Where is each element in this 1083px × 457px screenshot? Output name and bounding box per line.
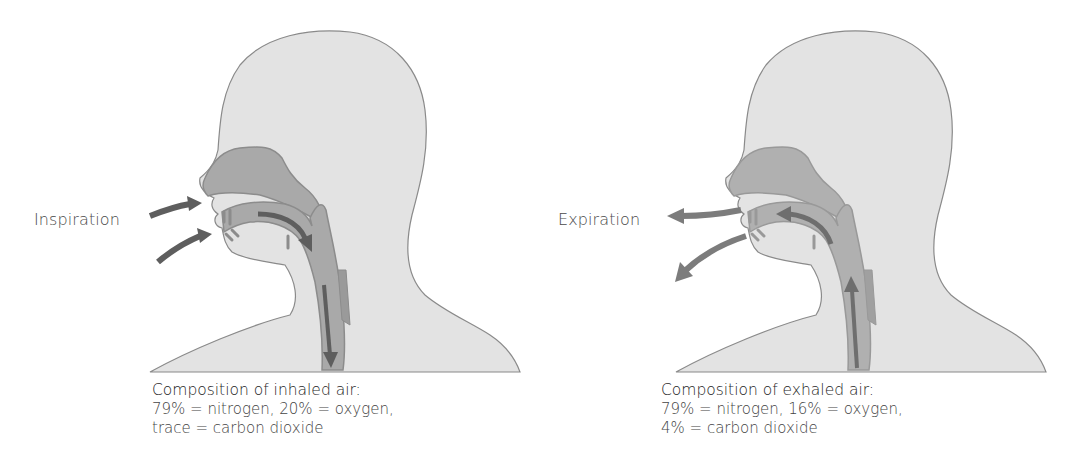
caption-line: 4% = carbon dioxide (661, 419, 903, 438)
caption-line: trace = carbon dioxide (152, 419, 394, 438)
caption-line: 79% = nitrogen, 16% = oxygen, (661, 400, 903, 419)
caption-title: Composition of exhaled air: (661, 381, 903, 400)
inhalation-panel: Inspiration Composition of inhaled air: … (0, 0, 541, 457)
caption-title: Composition of inhaled air: (152, 381, 394, 400)
expiration-label: Expiration (558, 210, 640, 229)
inflow-arrowhead-upper (187, 196, 202, 211)
inflow-arrow-upper (150, 204, 190, 216)
caption-line: 79% = nitrogen, 20% = oxygen, (152, 400, 394, 419)
outflow-arrow-upper (681, 210, 741, 216)
exhaled-air-composition: Composition of exhaled air: 79% = nitrog… (661, 381, 903, 438)
outflow-arrow-lower (686, 236, 746, 270)
inhalation-head-illustration (0, 0, 541, 380)
inspiration-label: Inspiration (34, 210, 120, 229)
inflow-arrowhead-lower (197, 228, 212, 243)
exhalation-panel: Expiration Composition of exhaled air: 7… (541, 0, 1083, 457)
inflow-arrow-lower (158, 236, 200, 262)
inhaled-air-composition: Composition of inhaled air: 79% = nitrog… (152, 381, 394, 438)
exhalation-head-illustration (541, 0, 1083, 380)
outflow-arrowhead-upper (667, 208, 684, 224)
